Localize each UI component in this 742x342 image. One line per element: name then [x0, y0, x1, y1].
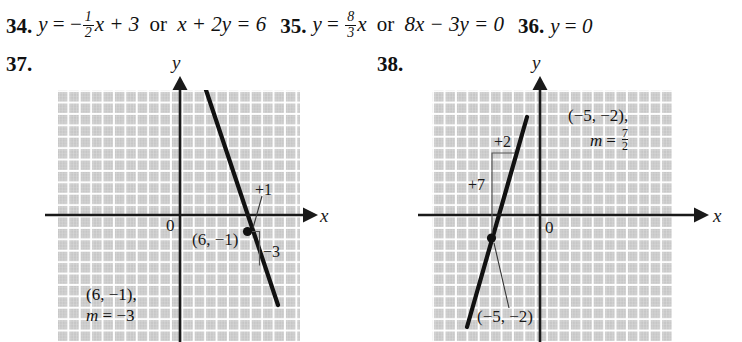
origin-label-38: 0 [545, 218, 554, 238]
origin-label-37: 0 [166, 216, 175, 236]
given-annotation-37: (6, −1), m = −3 [86, 284, 137, 327]
x-axis-arrow-38 [694, 208, 709, 223]
variable-after-fraction-34: x [95, 12, 104, 36]
x-axis-label-38: x [713, 205, 721, 227]
y-axis-arrow-37 [173, 76, 188, 90]
marked-point-37 [243, 227, 252, 236]
tail-34: + 3 [109, 12, 139, 36]
slope-triangle-38 [492, 153, 515, 238]
slope-triangle-37 [249, 232, 260, 266]
slope-symbol-38: m [590, 130, 602, 151]
answer-number-34: 34. [6, 14, 32, 39]
figure-number-37: 37. [6, 52, 32, 77]
or-word-35: or [377, 12, 395, 36]
run-label-37: +1 [255, 181, 272, 199]
answer-item-36: 36. y = 0 [518, 14, 592, 39]
rise-label-38: +7 [468, 176, 485, 194]
equals-36: = [565, 14, 577, 38]
y-axis-label-37: y [172, 52, 180, 74]
given-slope-38: m = 7 2 [590, 128, 628, 153]
fraction-35: 83 [345, 10, 356, 40]
point-leader-line-38 [494, 243, 509, 308]
answer-number-36: 36. [518, 14, 544, 39]
minus-sign-34: − [70, 12, 82, 36]
answer-key-page: 34. y = −12x + 3 or x + 2y = 6 35. y = 8… [0, 0, 742, 342]
run-leader-line-37 [253, 196, 262, 228]
fraction-denominator-35: 3 [345, 25, 356, 40]
variable-after-fraction-35: x [357, 12, 366, 36]
answer-expression-35: y = 83x or 8x − 3y = 0 [313, 11, 504, 41]
figure-38-graph [418, 76, 709, 342]
slope-equals-38: = [606, 130, 616, 151]
y-axis-label-38: y [532, 52, 540, 74]
answer-number-35: 35. [280, 14, 306, 39]
given-point-37: (6, −1), [86, 284, 137, 305]
fraction-denominator-34: 2 [83, 25, 94, 40]
rise-label-37: −3 [263, 243, 280, 261]
lhs-35: y [313, 12, 322, 36]
slope-symbol-37: m [86, 306, 98, 325]
slope-fraction-38: 7 2 [622, 127, 628, 152]
slope-fraction-numerator-38: 7 [622, 127, 628, 139]
point-label-37: (6, −1) [192, 230, 238, 250]
figure-number-38: 38. [377, 52, 403, 77]
slope-value-37: −3 [116, 306, 134, 325]
point-label-38: (−5, −2) [477, 307, 533, 327]
slope-equals-37: = [103, 306, 113, 325]
fraction-numerator-35: 8 [345, 10, 356, 24]
answer-expression-34: y = −12x + 3 or x + 2y = 6 [38, 11, 266, 41]
answers-line: 34. y = −12x + 3 or x + 2y = 6 35. y = 8… [6, 6, 742, 46]
fraction-numerator-34: 1 [83, 10, 94, 24]
or-word-34: or [150, 12, 168, 36]
given-annotation-38: (−5, −2), m = 7 2 [568, 105, 628, 154]
answer-item-34: 34. y = −12x + 3 or x + 2y = 6 [6, 11, 266, 41]
answer-item-35: 35. y = 83x or 8x − 3y = 0 [280, 11, 504, 41]
y-axis-arrow-38 [533, 76, 548, 90]
lhs-34: y [38, 12, 47, 36]
x-axis-label-37: x [320, 205, 328, 227]
answer-expression-36: y = 0 [550, 14, 592, 39]
slope-fraction-denominator-38: 2 [622, 139, 628, 152]
equals-35: = [327, 12, 339, 36]
grid-background-38 [432, 90, 672, 342]
alt-form-35: 8x − 3y = 0 [405, 12, 504, 36]
rhs-36: 0 [582, 14, 593, 38]
alt-form-34: x + 2y = 6 [177, 12, 266, 36]
marked-point-38 [487, 233, 496, 242]
given-point-38: (−5, −2), [568, 105, 628, 126]
given-slope-37: m = −3 [86, 305, 137, 326]
lhs-36: y [550, 14, 559, 38]
x-axis-arrow-37 [303, 208, 318, 223]
run-label-38: +2 [494, 133, 511, 151]
fraction-34: 12 [83, 10, 94, 40]
equals-34: = [53, 12, 65, 36]
